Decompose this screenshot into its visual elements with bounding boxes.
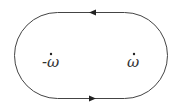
- contour-diagram: -ω ω: [0, 0, 177, 109]
- left-point-label: -ω: [42, 53, 59, 71]
- contour-path: [15, 13, 168, 99]
- right-point-label: ω: [127, 53, 139, 71]
- arrow-right-icon: [89, 96, 96, 102]
- arrow-left-icon: [89, 10, 96, 16]
